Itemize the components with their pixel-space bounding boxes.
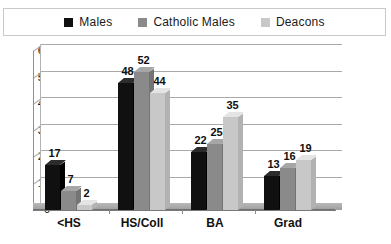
bar-group: 1772	[45, 51, 118, 210]
bar-face	[61, 191, 76, 210]
bar-face	[280, 168, 295, 210]
bar-males	[118, 83, 133, 210]
plot-area: 1772485244222535131619	[33, 44, 342, 210]
bar-group: 485244	[118, 51, 191, 210]
bar-males	[191, 152, 206, 210]
bar-side	[311, 156, 316, 210]
bar-value-label: 48	[121, 65, 133, 77]
legend-swatch-deacons	[261, 18, 270, 27]
bar-deacons	[77, 205, 92, 210]
legend-label-catholic-males: Catholic Males	[153, 15, 235, 29]
bar-group: 131619	[264, 51, 337, 210]
bar-face	[207, 144, 222, 210]
bar-value-label: 7	[67, 173, 73, 185]
bar-deacons	[223, 117, 238, 210]
bar-catholic-males	[207, 144, 222, 210]
x-axis-tick	[182, 210, 183, 214]
legend-item-males: Males	[64, 15, 112, 29]
legend-swatch-catholic-males	[138, 18, 147, 27]
bar-males	[264, 176, 279, 210]
legend-label-deacons: Deacons	[276, 15, 325, 29]
bar-chart: Males Catholic Males Deacons 01020304050…	[0, 0, 391, 244]
legend-label-males: Males	[79, 15, 112, 29]
chart-legend: Males Catholic Males Deacons	[3, 8, 386, 36]
bar-face	[118, 83, 133, 210]
bar-males	[45, 165, 60, 210]
bar-catholic-males	[280, 168, 295, 210]
bar-face	[77, 205, 92, 210]
x-axis-label: BA	[206, 216, 223, 230]
bar-group: 222535	[191, 51, 264, 210]
x-axis-label: HS/Coll	[121, 216, 164, 230]
gridline	[41, 44, 342, 45]
bar-face	[134, 72, 149, 210]
bar-deacons	[150, 93, 165, 210]
bar-value-label: 19	[299, 142, 311, 154]
bar-value-label: 52	[137, 54, 149, 66]
legend-swatch-males	[64, 18, 73, 27]
bar-catholic-males	[134, 72, 149, 210]
bar-value-label: 17	[48, 147, 60, 159]
bar-value-label: 16	[283, 150, 295, 162]
bar-value-label: 13	[267, 158, 279, 170]
x-axis-label: <HS	[57, 216, 81, 230]
bar-side	[238, 114, 243, 210]
bar-value-label: 25	[210, 126, 222, 138]
bar-value-label: 35	[226, 99, 238, 111]
bar-side	[165, 90, 170, 210]
x-axis-label: Grad	[274, 216, 302, 230]
bar-face	[191, 152, 206, 210]
x-axis-tick	[109, 210, 110, 214]
bar-value-label: 22	[194, 134, 206, 146]
bar-value-label: 44	[153, 75, 165, 87]
bar-face	[264, 176, 279, 210]
bar-value-label: 2	[83, 187, 89, 199]
y-axis-line	[33, 51, 34, 210]
bar-catholic-males	[61, 191, 76, 210]
bar-face	[45, 165, 60, 210]
bar-face	[150, 93, 165, 210]
x-axis-tick	[255, 210, 256, 214]
bar-face	[223, 117, 238, 210]
bar-face	[296, 160, 311, 210]
legend-item-catholic-males: Catholic Males	[138, 15, 235, 29]
bar-deacons	[296, 160, 311, 210]
legend-item-deacons: Deacons	[261, 15, 325, 29]
x-axis-line	[33, 210, 336, 211]
